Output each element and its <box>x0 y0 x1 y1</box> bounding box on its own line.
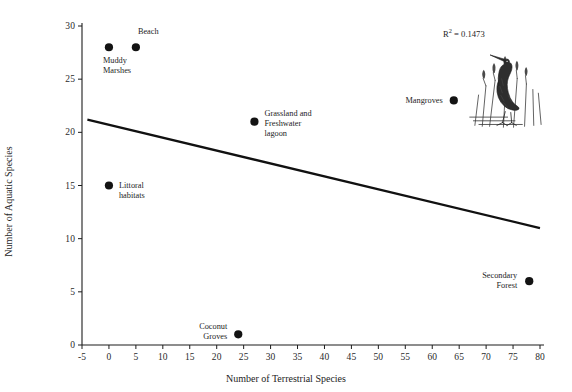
x-tick-label: 50 <box>373 352 383 362</box>
y-tick-label: 25 <box>65 74 75 84</box>
x-tick-label: -5 <box>78 352 86 362</box>
y-axis-title: Number of Aquatic Species <box>3 146 14 256</box>
x-tick-label: 30 <box>266 352 276 362</box>
y-tick-label: 15 <box>65 181 75 191</box>
x-tick-label: 25 <box>239 352 249 362</box>
data-point[interactable] <box>132 43 140 51</box>
x-tick-label: 60 <box>427 352 437 362</box>
x-tick-label: 75 <box>508 352 518 362</box>
point-label: Muddy Marshes <box>103 56 131 76</box>
trend-line-group <box>87 120 540 228</box>
point-label: Coconut Groves <box>199 322 227 342</box>
point-label: Mangroves <box>405 96 442 106</box>
x-axis-title: Number of Terrestrial Species <box>226 373 346 384</box>
point-label: Grassland and Freshwater lagoon <box>264 109 311 139</box>
x-tick-label: 0 <box>107 352 112 362</box>
data-point[interactable] <box>450 96 458 104</box>
x-tick-label: 15 <box>185 352 195 362</box>
y-tick-label: 10 <box>65 234 75 244</box>
point-label: Littoral habitats <box>119 181 145 201</box>
x-tick-label: 40 <box>320 352 330 362</box>
x-tick-label: 35 <box>293 352 303 362</box>
x-tick-label: 20 <box>212 352 222 362</box>
point-label: Beach <box>138 27 159 37</box>
point-label: Secondary Forest <box>482 271 517 291</box>
x-tick-label: 80 <box>535 352 545 362</box>
scatter-chart: -505101520253035404550556065707580051015… <box>0 0 572 392</box>
x-tick-label: 65 <box>454 352 464 362</box>
data-point[interactable] <box>250 118 258 126</box>
y-tick-label: 30 <box>65 21 75 31</box>
x-tick-label: 5 <box>133 352 138 362</box>
y-tick-label: 20 <box>65 127 75 137</box>
data-point[interactable] <box>234 330 242 338</box>
data-point[interactable] <box>105 181 113 189</box>
heron-bird-illustration <box>462 38 554 130</box>
x-tick-label: 45 <box>347 352 357 362</box>
trend-line <box>87 120 540 228</box>
x-tick-label: 55 <box>400 352 410 362</box>
y-tick-label: 0 <box>70 340 75 350</box>
data-point[interactable] <box>525 277 533 285</box>
x-tick-label: 10 <box>158 352 168 362</box>
y-tick-label: 5 <box>70 287 75 297</box>
data-point[interactable] <box>105 43 113 51</box>
x-tick-label: 70 <box>481 352 491 362</box>
